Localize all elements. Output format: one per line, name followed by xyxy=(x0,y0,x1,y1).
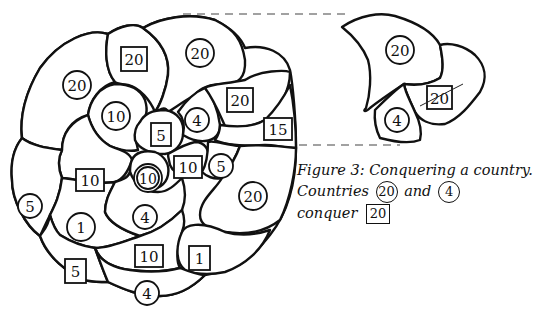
country-c7[interactable]: 20 xyxy=(227,88,253,112)
country-value: 20 xyxy=(243,188,262,206)
country-c3[interactable]: 20 xyxy=(186,39,214,67)
caption-conquer-label: conquer xyxy=(297,205,357,221)
country-value: 20 xyxy=(67,77,86,95)
country-c5[interactable]: 5 xyxy=(151,123,171,146)
country-value: 10 xyxy=(139,171,157,187)
detail-map xyxy=(342,14,485,142)
country-value: 4 xyxy=(192,112,202,130)
figure-caption: Figure 3: Conquering a country. Countrie… xyxy=(297,160,522,224)
country-c1[interactable]: 20 xyxy=(63,71,91,99)
country-value: 1 xyxy=(195,250,205,268)
country-value: 15 xyxy=(268,121,287,139)
country-c19[interactable]: 5 xyxy=(65,259,86,283)
caption-circle-marker-4: 4 xyxy=(438,181,460,203)
country-value: 20 xyxy=(390,42,409,60)
country-c9[interactable]: 10 xyxy=(76,169,104,191)
country-c10[interactable]: 10 xyxy=(134,164,162,192)
country-value: 10 xyxy=(139,248,158,266)
country-value: 10 xyxy=(106,108,125,126)
country-c11[interactable]: 10 xyxy=(174,156,202,178)
country-value: 10 xyxy=(178,159,197,177)
country-c14[interactable]: 5 xyxy=(18,194,42,218)
country-c15[interactable]: 1 xyxy=(67,213,95,241)
caption-line-3: conquer 20 xyxy=(297,203,522,224)
caption-and-label: and xyxy=(404,183,431,199)
country-value: 5 xyxy=(71,263,81,281)
country-value: 10 xyxy=(80,172,99,190)
country-value: 5 xyxy=(156,127,166,145)
country-c2[interactable]: 20 xyxy=(121,47,147,71)
country-d1[interactable]: 20 xyxy=(386,36,414,64)
caption-line-2: Countries 20 and 4 xyxy=(297,181,522,203)
country-value: 5 xyxy=(25,198,35,216)
country-value: 4 xyxy=(140,209,150,227)
country-value: 1 xyxy=(76,219,86,237)
country-c12[interactable]: 5 xyxy=(209,154,233,178)
country-c13[interactable]: 20 xyxy=(239,182,267,210)
country-value: 5 xyxy=(216,158,226,176)
country-value: 20 xyxy=(230,92,249,110)
country-c6[interactable]: 4 xyxy=(185,108,209,132)
caption-countries-label: Countries xyxy=(297,183,369,199)
caption-title: Figure 3: Conquering a country. xyxy=(297,160,522,181)
country-c4[interactable]: 10 xyxy=(102,102,130,130)
country-c18[interactable]: 1 xyxy=(189,246,210,270)
country-value: 20 xyxy=(124,51,143,69)
country-value: 4 xyxy=(142,285,152,303)
country-value: 20 xyxy=(190,45,209,63)
country-c8[interactable]: 15 xyxy=(264,118,292,140)
caption-box-marker-20: 20 xyxy=(366,204,390,224)
country-c17[interactable]: 10 xyxy=(135,245,163,267)
country-c20[interactable]: 4 xyxy=(135,281,159,305)
country-value: 4 xyxy=(392,112,402,130)
country-c16[interactable]: 4 xyxy=(133,205,157,229)
country-d2[interactable]: 4 xyxy=(385,108,409,132)
caption-circle-marker-20: 20 xyxy=(376,181,398,203)
